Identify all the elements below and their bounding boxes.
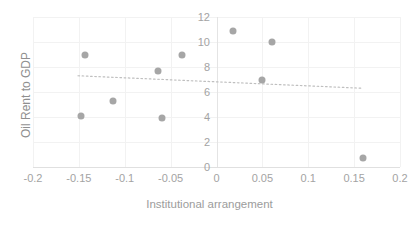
x-axis-tick-label: -0.2 <box>24 172 43 184</box>
y-axis-tick-label: 8 <box>204 61 210 73</box>
x-axis-tick-label: -0.1 <box>115 172 134 184</box>
x-axis-title: Institutional arrangement <box>0 198 419 210</box>
y-axis-tick-label: 4 <box>204 111 210 123</box>
data-point <box>77 112 84 119</box>
scatter-chart: Oil Rent to GDP 024681012 -0.2-0.15-0.1-… <box>0 0 419 228</box>
x-axis-tick-label: 0.1 <box>301 172 316 184</box>
plot-area <box>33 17 400 167</box>
x-axis-tick-label: 0.05 <box>252 172 273 184</box>
data-point <box>178 51 185 58</box>
y-axis-title: Oil Rent to GDP <box>19 20 33 170</box>
y-axis-title-wrap: Oil Rent to GDP <box>0 0 30 180</box>
y-axis-tick-label: 10 <box>198 36 210 48</box>
data-point <box>154 67 161 74</box>
gridline-vertical <box>400 17 401 167</box>
x-axis-tick-label: -0.15 <box>66 172 91 184</box>
y-axis-tick-label: 2 <box>204 136 210 148</box>
y-axis-tick-label: 12 <box>198 11 210 23</box>
data-point <box>259 76 266 83</box>
y-axis-ticks: 024681012 <box>186 17 210 167</box>
x-axis-tick-label: 0.15 <box>343 172 364 184</box>
x-axis-tick-label: -0.05 <box>158 172 183 184</box>
x-axis-tick-label: 0 <box>213 172 219 184</box>
data-point <box>360 155 367 162</box>
data-point <box>269 39 276 46</box>
x-axis-tick-label: 0.2 <box>392 172 407 184</box>
data-point <box>82 51 89 58</box>
x-axis-ticks: -0.2-0.15-0.1-0.0500.050.10.150.2 <box>33 172 400 188</box>
x-axis-line <box>33 167 400 168</box>
y-axis-tick-label: 6 <box>204 86 210 98</box>
trendline <box>33 17 400 167</box>
data-point <box>159 115 166 122</box>
data-point <box>109 97 116 104</box>
data-point <box>230 27 237 34</box>
